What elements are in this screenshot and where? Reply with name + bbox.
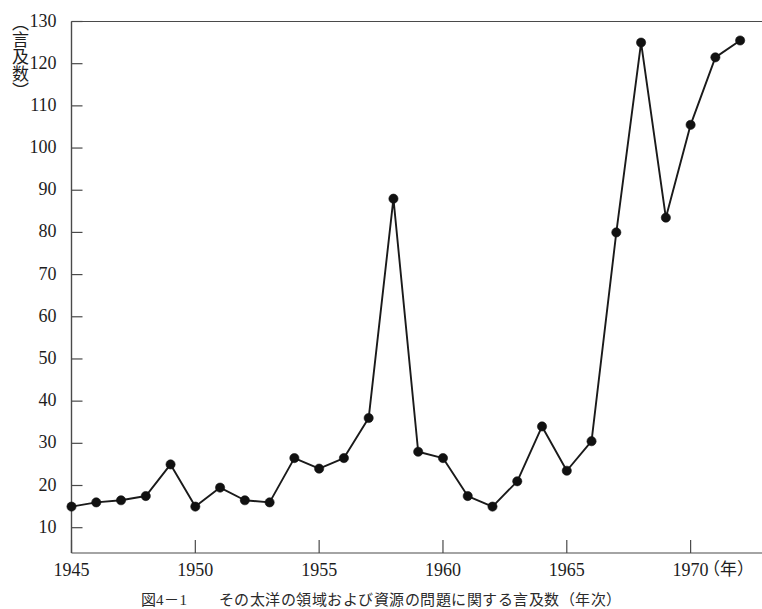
y-tick-label-130: 130 bbox=[17, 12, 57, 30]
y-tick-label-70: 70 bbox=[17, 265, 57, 283]
y-tick-label-30: 30 bbox=[17, 433, 57, 451]
y-tick-label-120: 120 bbox=[17, 54, 57, 72]
x-tick-label-1965: 1965 bbox=[532, 561, 602, 579]
y-tick-label-110: 110 bbox=[17, 96, 57, 114]
figure-container: （言及数） 102030405060708090100110120130 194… bbox=[0, 0, 762, 609]
line-chart-plot bbox=[0, 0, 762, 609]
x-tick-label-1945: 1945 bbox=[37, 561, 107, 579]
x-axis-unit-label: （年） bbox=[703, 561, 754, 579]
x-tick-label-1955: 1955 bbox=[284, 561, 354, 579]
y-tick-label-40: 40 bbox=[17, 391, 57, 409]
x-tick-label-1960: 1960 bbox=[408, 561, 478, 579]
figure-caption: 図4－1 その太洋の領域および資源の問題に関する言及数（年次） bbox=[0, 592, 762, 609]
x-tick-label-1950: 1950 bbox=[160, 561, 230, 579]
y-tick-label-90: 90 bbox=[17, 180, 57, 198]
y-tick-label-50: 50 bbox=[17, 349, 57, 367]
y-tick-label-10: 10 bbox=[17, 518, 57, 536]
y-tick-label-20: 20 bbox=[17, 476, 57, 494]
y-tick-label-100: 100 bbox=[17, 138, 57, 156]
y-tick-label-80: 80 bbox=[17, 222, 57, 240]
y-tick-label-60: 60 bbox=[17, 307, 57, 325]
